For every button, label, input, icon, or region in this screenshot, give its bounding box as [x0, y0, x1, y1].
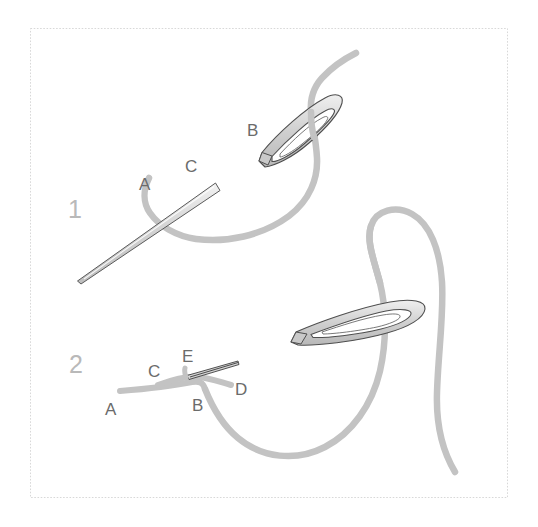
label-2-e: E — [182, 347, 193, 366]
step-1-number: 1 — [68, 195, 82, 223]
label-2-d: D — [235, 380, 247, 399]
label-2-b: B — [192, 396, 203, 415]
step-2-number: 2 — [69, 350, 83, 378]
thread-through-eye — [311, 112, 314, 137]
label-1-a: A — [139, 175, 151, 194]
label-2-c: C — [148, 362, 160, 381]
label-2-a: A — [105, 400, 117, 419]
diagram-background — [0, 0, 538, 527]
label-1-c: C — [185, 157, 197, 176]
label-1-b: B — [247, 121, 258, 140]
diagram-page: Two-step needle and thread stitch instru… — [0, 0, 538, 527]
stitch-diagram-illustration: Two-step needle and thread stitch instru… — [0, 0, 538, 527]
thread-stub-e — [185, 368, 186, 378]
